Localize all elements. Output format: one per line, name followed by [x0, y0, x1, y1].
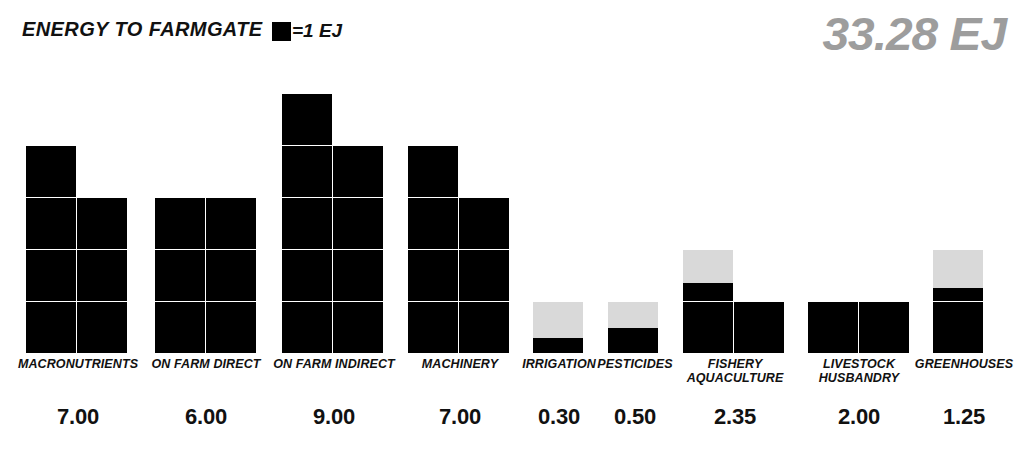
- bar-unit-row: [933, 249, 984, 301]
- category-label: GREENHOUSES: [912, 358, 1016, 372]
- infographic-chart: ENERGY TO FARMGATE =1 EJ 33.28 EJ MACRON…: [0, 0, 1020, 459]
- unit-square-1ej: [333, 197, 384, 249]
- bar-unit-row: [408, 197, 510, 249]
- unit-square-1ej: [933, 301, 984, 353]
- bar-unit-row: [282, 301, 384, 353]
- value-label: 9.00: [270, 404, 398, 430]
- bar-fishery-aquaculture: [683, 249, 785, 353]
- unit-square-1ej: [683, 249, 734, 301]
- unit-square-1ej: [683, 301, 734, 353]
- unit-square-1ej: [734, 301, 785, 353]
- bar-irrigation: [533, 301, 584, 353]
- bar-unit-row: [933, 301, 984, 353]
- bar-greenhouses: [933, 249, 984, 353]
- unit-square-1ej: [155, 249, 206, 301]
- bar-unit-row: [282, 93, 333, 145]
- bar-machinery: [408, 145, 510, 353]
- bar-unit-row: [26, 145, 77, 197]
- unit-square-1ej: [333, 249, 384, 301]
- unit-square-1ej: [408, 145, 459, 197]
- bar-unit-row: [155, 197, 257, 249]
- unit-square-1ej: [808, 301, 859, 353]
- unit-square-1ej: [608, 301, 659, 353]
- category-label: MACHINERY: [396, 358, 524, 372]
- bar-livestock-husbandry: [808, 301, 910, 353]
- unit-square-1ej: [155, 197, 206, 249]
- unit-square-partial-fill: [933, 288, 983, 301]
- bar-on-farm-direct: [155, 197, 257, 353]
- unit-square-partial-fill: [608, 328, 658, 354]
- category-label: ON FARM INDIRECT: [264, 358, 404, 372]
- unit-square-1ej: [155, 301, 206, 353]
- unit-square-1ej: [282, 93, 333, 145]
- unit-square-1ej: [206, 301, 257, 353]
- unit-square-1ej: [26, 145, 77, 197]
- unit-square-1ej: [77, 197, 128, 249]
- bar-unit-row: [155, 301, 257, 353]
- unit-square-1ej: [408, 197, 459, 249]
- unit-square-1ej: [333, 301, 384, 353]
- bar-unit-row: [408, 249, 510, 301]
- unit-square-1ej: [408, 301, 459, 353]
- bar-pesticides: [608, 301, 659, 353]
- bar-unit-row: [26, 249, 128, 301]
- unit-square-1ej: [408, 249, 459, 301]
- bar-unit-row: [683, 249, 734, 301]
- value-label: 7.00: [396, 404, 524, 430]
- unit-square-1ej: [77, 301, 128, 353]
- value-label: 7.00: [16, 404, 140, 430]
- bar-on-farm-indirect: [282, 93, 384, 353]
- value-label: 2.35: [676, 404, 794, 430]
- category-label: PESTICIDES: [588, 358, 682, 372]
- unit-square-1ej: [26, 301, 77, 353]
- value-label: 1.25: [912, 404, 1016, 430]
- bars-plot-area: MACRONUTRIENTS7.00ON FARM DIRECT6.00ON F…: [0, 0, 1020, 459]
- bar-unit-row: [533, 301, 584, 353]
- bar-unit-row: [26, 197, 128, 249]
- category-label: ON FARM DIRECT: [143, 358, 269, 372]
- value-label: 0.50: [588, 404, 682, 430]
- bar-unit-row: [608, 301, 659, 353]
- unit-square-1ej: [282, 301, 333, 353]
- unit-square-1ej: [282, 197, 333, 249]
- bar-unit-row: [408, 145, 459, 197]
- unit-square-1ej: [282, 145, 333, 197]
- category-label: FISHERY AQUACULTURE: [676, 358, 794, 385]
- unit-square-1ej: [459, 197, 510, 249]
- bar-macronutrients: [26, 145, 128, 353]
- category-label: LIVESTOCK HUSBANDRY: [802, 358, 916, 385]
- unit-square-partial-fill: [533, 338, 583, 353]
- unit-square-1ej: [533, 301, 584, 353]
- unit-square-1ej: [859, 301, 910, 353]
- unit-square-1ej: [459, 301, 510, 353]
- unit-square-1ej: [26, 197, 77, 249]
- unit-square-1ej: [459, 249, 510, 301]
- bar-unit-row: [282, 145, 384, 197]
- bar-unit-row: [282, 197, 384, 249]
- value-label: 6.00: [143, 404, 269, 430]
- bar-unit-row: [155, 249, 257, 301]
- bar-unit-row: [26, 301, 128, 353]
- bar-unit-row: [408, 301, 510, 353]
- bar-unit-row: [683, 301, 785, 353]
- category-label: MACRONUTRIENTS: [8, 358, 148, 372]
- bar-unit-row: [808, 301, 910, 353]
- value-label: 2.00: [802, 404, 916, 430]
- unit-square-1ej: [206, 249, 257, 301]
- unit-square-partial-fill: [683, 283, 733, 301]
- unit-square-1ej: [26, 249, 77, 301]
- unit-square-1ej: [206, 197, 257, 249]
- bar-unit-row: [282, 249, 384, 301]
- unit-square-1ej: [282, 249, 333, 301]
- unit-square-1ej: [333, 145, 384, 197]
- unit-square-1ej: [77, 249, 128, 301]
- unit-square-1ej: [933, 249, 984, 301]
